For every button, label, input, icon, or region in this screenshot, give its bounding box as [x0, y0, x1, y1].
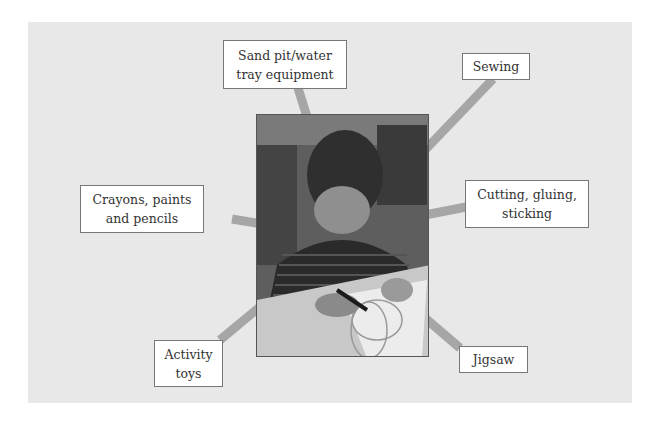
spoke-jigsaw	[425, 318, 460, 348]
spoke-cutting	[425, 207, 466, 215]
center-photo	[256, 114, 429, 357]
spoke-sewing	[425, 79, 493, 150]
label-sand-pit: Sand pit/water tray equipment	[223, 40, 347, 89]
label-activity-text: Activity toys	[155, 345, 222, 383]
label-sewing: Sewing	[462, 53, 530, 80]
label-sand-pit-text: Sand pit/water tray equipment	[224, 46, 346, 84]
photo-boy-drawing	[257, 115, 429, 357]
label-activity: Activity toys	[154, 340, 223, 387]
label-cutting: Cutting, gluing, sticking	[465, 180, 589, 228]
label-crayons: Crayons, paints and pencils	[80, 185, 204, 233]
label-crayons-text: Crayons, paints and pencils	[81, 190, 203, 228]
label-cutting-text: Cutting, gluing, sticking	[466, 185, 588, 223]
label-jigsaw: Jigsaw	[459, 346, 528, 373]
label-jigsaw-text: Jigsaw	[473, 350, 515, 369]
label-sewing-text: Sewing	[473, 57, 520, 76]
